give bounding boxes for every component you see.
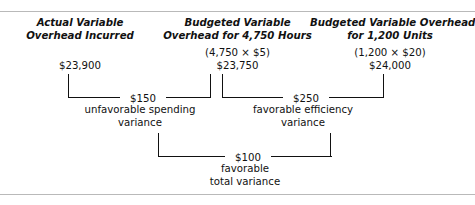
formula-budgeted-units: (1,200 × $20) [310, 47, 470, 58]
column-header-actual-line2: Overhead Incurred [10, 29, 150, 42]
variance-caption-spending-line2: variance [65, 116, 215, 129]
amount-actual: $23,900 [10, 60, 150, 71]
diagram-title: Variable Overhead Variances [0, 0, 475, 2]
variance-value-efficiency: $250 [283, 92, 329, 103]
variance-caption-total-line1: favorable [221, 163, 269, 174]
top-rule [0, 11, 475, 12]
variance-diagram: Variable Overhead Variances Actual Varia… [0, 0, 475, 205]
amount-budgeted-hours: $23,750 [155, 60, 320, 71]
column-header-budgeted-units-line1: Budgeted Variable Overhead [310, 17, 475, 28]
variance-caption-total: favorable total variance [170, 162, 320, 188]
column-header-actual: Actual Variable Overhead Incurred [10, 16, 150, 42]
bracket-spending-right-leg [210, 74, 211, 98]
column-header-budgeted-hours: Budgeted Variable Overhead for 4,750 Hou… [155, 16, 320, 42]
variance-caption-total-line2: total variance [170, 175, 320, 188]
variance-value-total: $100 [225, 151, 271, 162]
variance-caption-efficiency-line1: favorable efficiency [253, 104, 353, 115]
column-header-budgeted-units-line2: for 1,200 Units [310, 29, 470, 42]
bracket-efficiency-right-leg [383, 74, 384, 98]
amount-budgeted-units: $24,000 [310, 60, 470, 71]
variance-caption-efficiency: favorable efficiency variance [228, 103, 378, 129]
variance-value-spending: $150 [120, 92, 166, 103]
variance-caption-spending: unfavorable spending variance [65, 103, 215, 129]
bracket-spending-left-leg [68, 74, 69, 98]
variance-caption-spending-line1: unfavorable spending [85, 104, 196, 115]
bottom-rule [0, 194, 475, 195]
column-header-actual-line1: Actual Variable [37, 17, 124, 28]
bracket-efficiency-left-leg [222, 74, 223, 98]
column-header-budgeted-hours-line1: Budgeted Variable [184, 17, 290, 28]
formula-budgeted-hours: (4,750 × $5) [155, 47, 320, 58]
bracket-total-right-leg [330, 133, 331, 157]
column-header-budgeted-hours-line2: Overhead for 4,750 Hours [155, 29, 320, 42]
bracket-total-left-leg [158, 133, 159, 157]
column-header-budgeted-units: Budgeted Variable Overhead for 1,200 Uni… [310, 16, 470, 42]
variance-caption-efficiency-line2: variance [228, 116, 378, 129]
